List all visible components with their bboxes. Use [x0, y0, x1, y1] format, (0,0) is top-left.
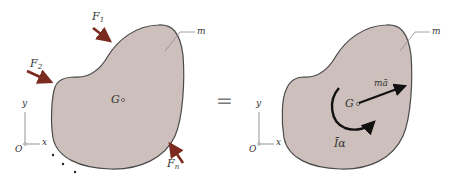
left-axis-y-label: y [22, 99, 27, 108]
left-origin-label: O [15, 145, 22, 154]
force-label-f2: F2 [30, 58, 42, 71]
left-center-of-mass-label: G [111, 94, 120, 105]
force-label-fn: Fn [167, 158, 179, 171]
ellipsis-dot [52, 154, 54, 156]
right-axis-y-label: y [256, 99, 261, 108]
rotational-inertia-label: Īα [334, 138, 346, 149]
right-axis-x-label: x [276, 138, 281, 147]
force-arrow-f1 [93, 28, 110, 41]
equals-sign: = [216, 90, 233, 110]
right-mass-label: m [432, 27, 441, 36]
right-axes [258, 112, 274, 145]
ellipsis-dot [74, 171, 76, 173]
left-axis-x-label: x [42, 138, 47, 147]
force-label-f1: F1 [92, 11, 104, 24]
right-center-of-mass-label: G [345, 98, 354, 109]
left-mass-label: m [197, 27, 206, 36]
force-arrow-f2 [27, 71, 51, 82]
right-origin-label: O [249, 145, 256, 154]
left-axes [24, 112, 40, 145]
ellipsis-dot [62, 163, 64, 165]
linear-inertia-label: mā [374, 79, 388, 88]
left-body [24, 25, 195, 173]
